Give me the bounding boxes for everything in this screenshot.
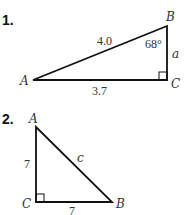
side-BC-1: a: [172, 47, 179, 61]
problem-1-number: 1.: [2, 12, 14, 28]
vertex-A-1: A: [19, 74, 29, 88]
side-AC-1: 3.7: [92, 84, 107, 98]
side-CB-2: 7: [69, 204, 75, 215]
right-angle-marker-1: [159, 72, 167, 80]
right-angle-marker-2: [36, 194, 44, 202]
side-AB-1: 4.0: [97, 34, 112, 48]
side-AC-2: 7: [24, 157, 30, 171]
vertex-B-2: B: [115, 197, 125, 211]
figure-canvas: 1. A B C 4.0 68° a 3.7 2. A C B 7 7 c: [0, 0, 186, 215]
vertex-C-2: C: [22, 197, 31, 211]
angle-B-1: 68°: [145, 37, 162, 51]
side-AB-2: c: [77, 151, 84, 165]
vertex-B-1: B: [165, 10, 175, 24]
triangle-2: [36, 127, 112, 202]
problem-2-number: 2.: [2, 111, 14, 127]
vertex-C-1: C: [171, 77, 180, 91]
problem-2: 2. A C B 7 7 c: [2, 111, 125, 215]
problem-1: 1. A B C 4.0 68° a 3.7: [2, 10, 180, 98]
vertex-A-2: A: [28, 112, 38, 126]
